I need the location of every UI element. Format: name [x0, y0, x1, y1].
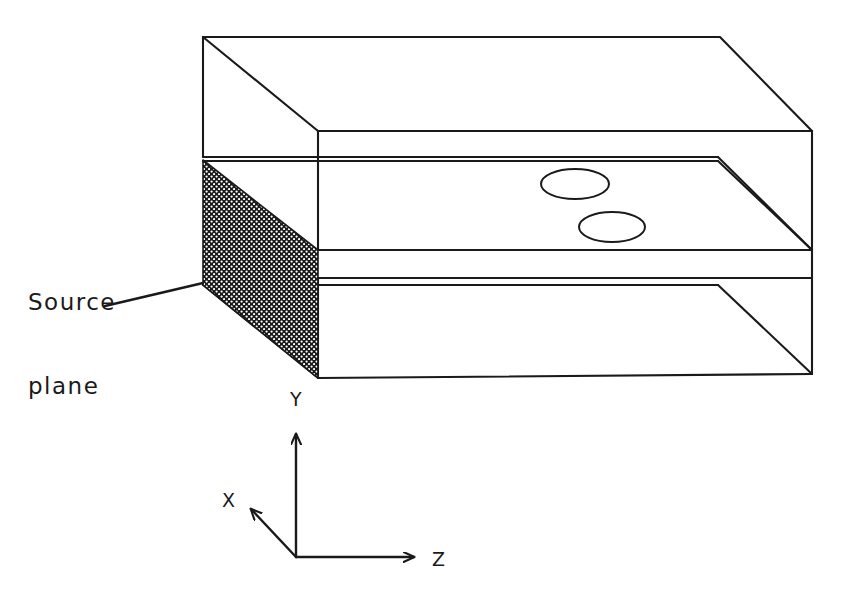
- bottom-layer-right-receding-edge: [718, 285, 812, 374]
- figure-root: Source plane Y X Z: [0, 0, 858, 608]
- source-plane-label-line2: plane: [28, 372, 116, 400]
- diagram-svg: [0, 0, 858, 608]
- axis-label-y: Y: [290, 388, 302, 411]
- axis-label-x: X: [222, 489, 235, 512]
- middle-layer-right-receding-edge: [718, 161, 812, 250]
- source-plane-label: Source plane: [28, 232, 116, 456]
- bottom-layer-front-bottom-edge: [318, 374, 812, 378]
- axis-label-z: Z: [432, 548, 445, 571]
- source-plane-leader-line: [105, 283, 203, 306]
- inclusion-1-ellipse: [541, 169, 609, 199]
- inclusion-2-ellipse: [579, 212, 645, 242]
- x-axis-arrow: [251, 509, 296, 557]
- source-plane-shape: [203, 160, 318, 378]
- block-top-face: [203, 37, 812, 131]
- axis-triad: [251, 434, 414, 557]
- source-plane-label-line1: Source: [28, 288, 116, 316]
- top-layer-block: [203, 37, 812, 250]
